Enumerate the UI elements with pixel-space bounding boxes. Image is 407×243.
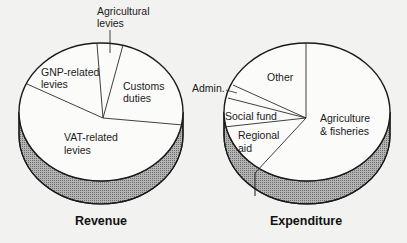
label-vat-levies-2: levies <box>64 144 91 156</box>
label-agriculture-fisheries-1: Agriculture <box>320 112 370 124</box>
label-vat-levies-1: VAT-related <box>64 131 118 143</box>
revenue-title: Revenue <box>75 214 127 228</box>
revenue-pie-face <box>19 43 183 181</box>
label-gnp-levies-1: GNP-related <box>41 66 100 78</box>
expenditure-pie: Other Admin. Social fund Regional aid Ag… <box>192 43 390 228</box>
label-agricultural-levies-1: Agricultural <box>97 5 150 17</box>
expenditure-title: Expenditure <box>270 214 342 228</box>
label-agriculture-fisheries-2: & fisheries <box>320 125 369 137</box>
label-customs-duties-2: duties <box>123 92 151 104</box>
label-admin: Admin. <box>192 82 225 94</box>
label-gnp-levies-2: levies <box>41 78 68 90</box>
label-regional-aid-1: Regional <box>238 129 279 141</box>
label-other: Other <box>267 71 294 83</box>
label-regional-aid-2: aid <box>238 142 252 154</box>
label-agricultural-levies-2: levies <box>97 17 124 29</box>
label-customs-duties-1: Customs <box>123 80 164 92</box>
revenue-pie: Agricultural levies GNP-related levies C… <box>19 5 183 228</box>
pie-charts: Agricultural levies GNP-related levies C… <box>0 0 407 243</box>
label-social-fund: Social fund <box>225 110 277 122</box>
